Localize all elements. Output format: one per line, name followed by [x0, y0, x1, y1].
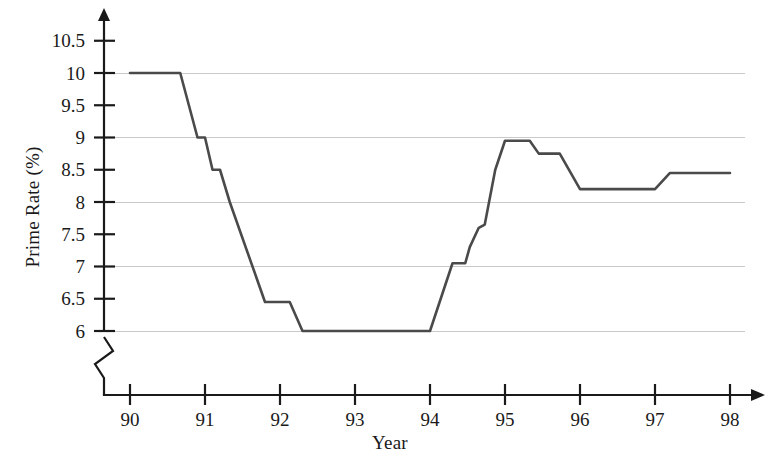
- y-tick-label: 6: [76, 321, 86, 342]
- x-tick-label: 98: [721, 409, 740, 430]
- y-axis-break-symbol: [95, 337, 113, 395]
- x-tick-label: 97: [646, 409, 665, 430]
- gridlines: [104, 73, 745, 331]
- y-axis-arrowhead: [98, 8, 110, 21]
- y-tick-label: 8: [76, 192, 86, 213]
- y-tick-labels: 66.577.588.599.51010.5: [52, 30, 85, 341]
- y-tick-label: 6.5: [61, 288, 85, 309]
- x-tick-label: 96: [571, 409, 590, 430]
- x-tick-labels: 909192939495969798: [121, 409, 740, 430]
- x-tick-label: 90: [121, 409, 140, 430]
- y-axis-title: Prime Rate (%): [22, 122, 44, 292]
- x-tick-label: 93: [346, 409, 365, 430]
- y-tick-label: 8.5: [61, 159, 85, 180]
- y-tick-label: 7.5: [61, 224, 85, 245]
- x-axis-arrowhead: [751, 389, 765, 401]
- y-tick-label: 9.5: [61, 95, 85, 116]
- x-tick-label: 94: [421, 409, 441, 430]
- x-axis: [104, 384, 765, 405]
- x-tick-label: 95: [496, 409, 515, 430]
- y-tick-label: 10.5: [52, 30, 85, 51]
- y-axis: [94, 8, 115, 395]
- chart-canvas: 66.577.588.599.51010.5 90919293949596979…: [0, 0, 769, 462]
- x-tick-label: 92: [271, 409, 290, 430]
- y-tick-label: 7: [76, 256, 86, 277]
- prime-rate-line-chart: 66.577.588.599.51010.5 90919293949596979…: [0, 0, 769, 462]
- y-tick-label: 9: [76, 127, 86, 148]
- x-axis-title: Year: [372, 432, 408, 454]
- y-tick-label: 10: [66, 63, 85, 84]
- x-tick-label: 91: [196, 409, 215, 430]
